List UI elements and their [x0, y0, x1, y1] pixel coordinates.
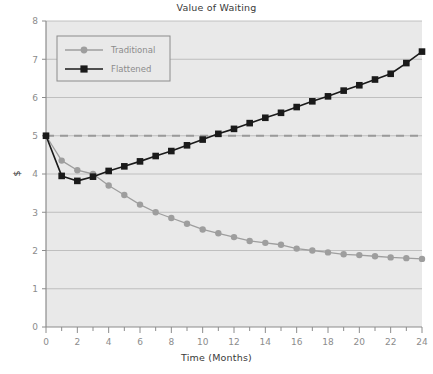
marker-circle-traditional [215, 230, 221, 236]
marker-circle-traditional [325, 249, 331, 255]
marker-circle-traditional [387, 254, 393, 260]
marker-square-flattened [246, 120, 253, 127]
marker-square-flattened [58, 173, 65, 180]
value-of-waiting-chart: Value of Waiting $ Time (Months) 0123456… [0, 0, 433, 374]
marker-square-flattened [309, 98, 316, 105]
marker-square-flattened [121, 163, 128, 170]
marker-square-flattened [184, 142, 191, 149]
marker-square-flattened [168, 148, 175, 155]
legend-marker-square [80, 65, 87, 72]
marker-square-flattened [340, 87, 347, 94]
x-tick-label: 12 [228, 337, 239, 347]
marker-circle-traditional [403, 255, 409, 261]
marker-circle-traditional [168, 215, 174, 221]
y-tick-label: 8 [32, 16, 38, 26]
x-tick-label: 16 [291, 337, 303, 347]
legend-label-traditional: Traditional [110, 45, 155, 55]
marker-square-flattened [356, 82, 363, 89]
marker-circle-traditional [293, 245, 299, 251]
y-tick-label: 7 [32, 55, 38, 65]
marker-square-flattened [403, 60, 410, 67]
marker-circle-traditional [309, 247, 315, 253]
y-tick-label: 3 [32, 208, 38, 218]
marker-square-flattened [231, 126, 238, 133]
marker-circle-traditional [121, 192, 127, 198]
x-axis-label: Time (Months) [0, 352, 433, 363]
marker-circle-traditional [278, 242, 284, 248]
marker-square-flattened [372, 76, 379, 83]
plot-area: 012345678024681012141618202224Traditiona… [0, 0, 433, 374]
marker-square-flattened [325, 93, 332, 100]
marker-square-flattened [43, 132, 50, 139]
x-tick-label: 22 [385, 337, 396, 347]
marker-square-flattened [90, 173, 97, 180]
marker-circle-traditional [246, 238, 252, 244]
marker-circle-traditional [137, 201, 143, 207]
y-axis-label: $ [11, 154, 22, 194]
marker-circle-traditional [372, 253, 378, 259]
marker-circle-traditional [419, 256, 425, 262]
legend-box [57, 36, 170, 81]
x-tick-label: 10 [197, 337, 209, 347]
marker-square-flattened [215, 131, 222, 138]
marker-square-flattened [293, 104, 300, 111]
x-tick-label: 8 [168, 337, 174, 347]
y-tick-label: 5 [32, 131, 38, 141]
x-tick-label: 4 [106, 337, 112, 347]
y-tick-label: 6 [32, 93, 38, 103]
marker-square-flattened [74, 178, 81, 185]
x-tick-label: 18 [322, 337, 334, 347]
x-tick-label: 2 [74, 337, 80, 347]
x-tick-label: 0 [43, 337, 49, 347]
legend-label-flattened: Flattened [111, 64, 151, 74]
y-tick-label: 2 [32, 246, 38, 256]
chart-title: Value of Waiting [0, 2, 433, 13]
marker-square-flattened [262, 114, 269, 121]
marker-circle-traditional [262, 240, 268, 246]
marker-square-flattened [137, 158, 144, 165]
x-tick-label: 6 [137, 337, 143, 347]
marker-circle-traditional [184, 221, 190, 227]
x-tick-label: 24 [416, 337, 428, 347]
x-tick-label: 14 [260, 337, 272, 347]
marker-square-flattened [419, 48, 426, 55]
marker-circle-traditional [152, 209, 158, 215]
x-tick-label: 20 [354, 337, 366, 347]
y-tick-label: 1 [32, 284, 38, 294]
marker-square-flattened [152, 153, 159, 160]
y-tick-label: 4 [32, 169, 38, 179]
marker-square-flattened [278, 110, 285, 117]
legend-marker-circle [81, 47, 88, 54]
marker-circle-traditional [199, 226, 205, 232]
marker-square-flattened [387, 70, 394, 77]
marker-square-flattened [105, 168, 112, 175]
y-tick-label: 0 [32, 322, 38, 332]
marker-circle-traditional [356, 252, 362, 258]
marker-circle-traditional [340, 251, 346, 257]
marker-square-flattened [199, 136, 206, 143]
marker-circle-traditional [105, 182, 111, 188]
marker-circle-traditional [74, 167, 80, 173]
marker-circle-traditional [58, 157, 64, 163]
marker-circle-traditional [231, 234, 237, 240]
